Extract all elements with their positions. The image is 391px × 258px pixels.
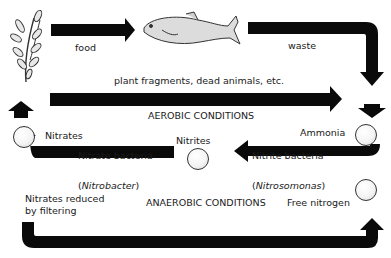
nitrates-reduced-label-1: Nitrates reduced [25,193,104,204]
filtering-arrow [22,218,384,248]
food-label: food [75,42,96,53]
ammonia-node [355,124,377,146]
fish-icon [144,12,240,44]
nitrate-bacteria-label: Nitrate bacteria [78,150,153,161]
plant-icon [9,9,43,82]
nitrites-label: Nitrites [176,135,211,146]
waste-label: waste [288,40,316,51]
plant-fragments-label: plant fragments, dead animals, etc. [114,75,284,86]
nitrates-node [13,126,35,148]
anaerobic-conditions-label: ANAEROBIC CONDITIONS [146,197,266,208]
nitrites-node [187,148,209,170]
nitrates-reduced-label-2: by filtering [25,205,76,216]
food-arrow [51,18,135,42]
nitrates-label: Nitrates [45,130,83,141]
plant-fragments-arrow [50,86,342,112]
free-nitrogen-label: Free nitrogen [287,197,350,208]
nitrite-bacteria-label: Nitrite bacteria [252,150,324,161]
ammonia-down-arrow [358,104,386,118]
ammonia-label: Ammonia [300,127,345,138]
free-nitrogen-node [355,179,377,201]
nitrates-up-arrow [8,101,34,118]
aerobic-conditions-label: AEROBIC CONDITIONS [148,110,254,121]
nitrobacter-label: (Nitrobacter) [78,180,139,191]
nitrosomonas-label: (Nitrosomonas) [252,180,325,191]
